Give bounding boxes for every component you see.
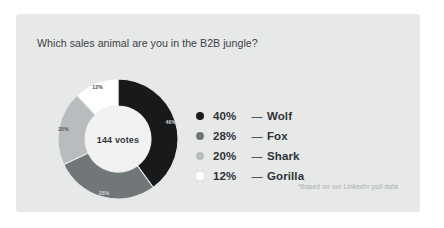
donut-slice-label-fox: 28% — [99, 190, 110, 196]
legend-swatch-icon — [196, 132, 204, 140]
legend-swatch-icon — [196, 152, 204, 160]
page-title: Which sales animal are you in the B2B ju… — [37, 36, 367, 50]
legend-swatch-icon — [196, 172, 204, 180]
legend-dash: — — [247, 130, 267, 142]
legend-item-shark[interactable]: 20% — Shark — [196, 146, 396, 166]
legend-swatch-icon — [196, 112, 204, 120]
legend: 40% — Wolf 28% — Fox 20% — Shark 12% — G — [196, 106, 396, 186]
donut-slice-label-gorilla: 12% — [92, 84, 103, 90]
donut-chart-svg: 40%28%20%12% 144 votes — [42, 72, 194, 208]
legend-label: Fox — [267, 130, 288, 142]
donut-chart: 40%28%20%12% 144 votes — [42, 72, 194, 208]
source-footnote: *Based on our LinkedIn poll data — [298, 183, 398, 190]
legend-percent: 28% — [213, 130, 247, 142]
legend-percent: 40% — [213, 110, 247, 122]
legend-percent: 12% — [213, 170, 247, 182]
legend-percent: 20% — [213, 150, 247, 162]
poll-infographic: Which sales animal are you in the B2B ju… — [0, 0, 444, 228]
legend-item-fox[interactable]: 28% — Fox — [196, 126, 396, 146]
legend-label: Shark — [267, 150, 299, 162]
legend-dash: — — [247, 110, 267, 122]
donut-slice-label-wolf: 40% — [165, 119, 176, 125]
legend-dash: — — [247, 150, 267, 162]
legend-dash: — — [247, 170, 267, 182]
poll-card: Which sales animal are you in the B2B ju… — [16, 14, 420, 212]
legend-label: Wolf — [267, 110, 292, 122]
center-vote-count: 144 votes — [97, 135, 139, 145]
legend-label: Gorilla — [267, 170, 304, 182]
legend-item-wolf[interactable]: 40% — Wolf — [196, 106, 396, 126]
donut-slice-label-shark: 20% — [58, 126, 69, 132]
